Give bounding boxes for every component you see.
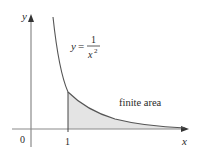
- y-axis-label: y: [21, 10, 27, 22]
- origin-label: 0: [20, 134, 25, 145]
- finite-area-label: finite area: [119, 97, 162, 108]
- x-axis-arrow-icon: [181, 126, 189, 132]
- svg-text:y: y: [70, 40, 76, 52]
- svg-text:1: 1: [91, 34, 96, 45]
- x-axis-label: x: [181, 135, 187, 147]
- svg-text:2: 2: [94, 47, 98, 55]
- tick-label-1: 1: [65, 136, 70, 147]
- svg-text:x: x: [87, 49, 93, 60]
- svg-text:=: =: [78, 40, 84, 52]
- area-under-curve-diagram: y x 0 1 y = 1 x 2 finite area: [0, 0, 203, 159]
- function-label: y = 1 x 2: [70, 34, 100, 60]
- y-axis-arrow-icon: [28, 14, 34, 22]
